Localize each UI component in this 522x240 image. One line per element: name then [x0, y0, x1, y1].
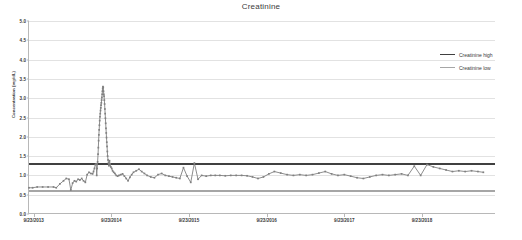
data-point-marker [257, 178, 259, 180]
data-point-marker [388, 175, 390, 177]
data-point-marker [108, 165, 110, 167]
data-point-marker [74, 180, 76, 182]
data-point-marker [157, 174, 159, 176]
data-point-marker [426, 164, 428, 166]
data-point-marker [477, 171, 479, 173]
data-point-marker [86, 174, 88, 176]
x-axis-tick-label: 9/23/2013 [23, 218, 43, 223]
legend: Creatinine high Creatinine low [440, 48, 522, 74]
data-point-marker [75, 181, 77, 183]
data-point-marker [138, 168, 140, 170]
data-point-marker [420, 175, 422, 177]
data-point-marker [107, 159, 109, 161]
data-point-marker [135, 170, 137, 172]
data-point-marker [356, 177, 358, 179]
data-point-marker [120, 174, 122, 176]
data-point-marker [97, 147, 99, 149]
y-axis-tick-label: 2.5 [20, 115, 26, 120]
data-point-marker [96, 175, 98, 177]
data-point-marker [42, 186, 44, 188]
data-point-marker [72, 182, 74, 184]
data-point-marker [131, 174, 133, 176]
data-point-marker [350, 175, 352, 177]
data-point-marker [445, 169, 447, 171]
data-point-marker [394, 174, 396, 176]
y-axis-tick-label: 1.0 [20, 173, 26, 178]
data-point-marker [68, 178, 70, 180]
data-point-marker [109, 163, 111, 165]
data-point-marker [101, 93, 103, 95]
data-point-marker [28, 187, 30, 189]
data-point-marker [102, 87, 104, 89]
data-point-marker [286, 174, 288, 176]
data-point-marker [103, 90, 105, 92]
y-axis-tick-label: 4.0 [20, 57, 26, 62]
data-point-marker [363, 178, 365, 180]
data-point-marker [343, 174, 345, 176]
data-point-marker [241, 175, 243, 177]
legend-swatch-creatinine-high [440, 54, 455, 56]
data-point-marker [106, 141, 108, 143]
data-point-marker [194, 162, 196, 164]
data-point-marker [103, 99, 105, 101]
data-point-marker [105, 127, 107, 129]
data-point-marker [97, 161, 99, 163]
data-point-marker [175, 177, 177, 179]
data-point-marker [190, 182, 192, 184]
data-point-marker [83, 180, 85, 182]
data-point-marker [105, 117, 107, 119]
data-point-marker [439, 168, 441, 170]
data-point-marker [118, 175, 120, 177]
data-point-marker [65, 178, 67, 180]
data-point-marker [94, 168, 96, 170]
data-point-marker [141, 171, 143, 173]
data-point-marker [205, 175, 207, 177]
data-point-marker [95, 163, 97, 165]
data-point-marker [186, 175, 188, 177]
data-point-marker [101, 99, 103, 101]
data-point-marker [81, 178, 83, 180]
y-axis-tick-label: 3.5 [20, 76, 26, 81]
data-point-marker [99, 120, 101, 122]
chart-title: Creatinine [0, 2, 522, 11]
data-point-marker [230, 175, 232, 177]
x-axis-tick-mark [189, 214, 190, 217]
data-point-marker [100, 107, 102, 109]
data-point-marker [337, 175, 339, 177]
y-axis-tick-label: 5.0 [20, 19, 26, 24]
data-point-marker [305, 175, 307, 177]
data-point-marker [280, 172, 282, 174]
data-point-marker [375, 175, 377, 177]
data-point-marker [125, 178, 127, 180]
data-point-marker [55, 187, 57, 189]
y-axis-tick-mark [27, 214, 29, 215]
data-point-marker [324, 171, 326, 173]
data-point-marker [99, 113, 101, 115]
data-point-marker [168, 175, 170, 177]
legend-label-creatinine-low: Creatinine low [459, 65, 491, 71]
data-point-marker [63, 180, 65, 182]
plot-area: 0.00.51.01.52.02.53.03.54.04.55.0 9/23/2… [28, 21, 495, 214]
x-axis-tick-mark [267, 214, 268, 217]
data-point-marker [92, 173, 94, 175]
data-point-marker [84, 182, 86, 184]
data-point-marker [164, 175, 166, 177]
data-point-marker [108, 162, 110, 164]
data-point-marker [36, 186, 38, 188]
y-axis-tick-label: 1.5 [20, 154, 26, 159]
data-point-marker [179, 178, 181, 180]
data-point-marker [100, 110, 102, 112]
x-axis-tick-label: 9/23/2015 [179, 218, 199, 223]
x-axis-tick-mark [34, 214, 35, 217]
data-point-marker [96, 168, 98, 170]
x-axis-tick-mark [422, 214, 423, 217]
data-point-marker [483, 171, 485, 173]
data-point-marker [246, 175, 248, 177]
data-point-marker [79, 179, 81, 181]
data-point-marker [104, 103, 106, 105]
data-point-marker [299, 174, 301, 176]
data-point-marker [274, 171, 276, 173]
data-point-marker [369, 176, 371, 178]
creatinine-series [29, 21, 495, 214]
data-point-marker [98, 129, 100, 131]
